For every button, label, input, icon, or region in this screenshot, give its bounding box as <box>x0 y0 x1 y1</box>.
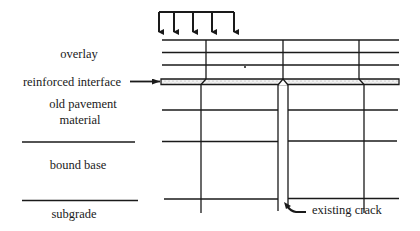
reinforced-interface-band <box>161 79 399 85</box>
load-arrows <box>159 12 234 32</box>
speck <box>244 66 246 68</box>
crack-pointer-arrow-icon <box>284 202 306 212</box>
label-reinforced-interface: reinforced interface <box>23 76 121 89</box>
label-old-pavement-line2: material <box>60 114 101 127</box>
overlay-layer-lines <box>162 40 399 79</box>
lower-joints <box>201 85 364 214</box>
label-overlay: overlay <box>60 48 97 61</box>
label-subgrade: subgrade <box>51 208 96 221</box>
existing-crack <box>278 85 288 211</box>
label-bound-base: bound base <box>50 159 107 172</box>
label-existing-crack: existing crack <box>312 204 382 217</box>
label-old-pavement-line1: old pavement <box>49 98 117 111</box>
